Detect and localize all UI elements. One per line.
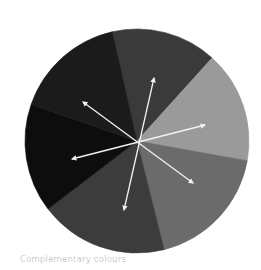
caption: Complementary colours [20, 254, 126, 264]
complementary-colour-wheel [0, 0, 261, 255]
